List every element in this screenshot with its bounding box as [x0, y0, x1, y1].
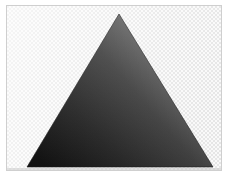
triangle-shade-overlay — [27, 14, 213, 167]
triangle-graphic — [7, 6, 222, 171]
picture-frame — [6, 5, 222, 171]
figure-canvas: Isosceles triangle filled with a dark-to… — [0, 0, 234, 178]
